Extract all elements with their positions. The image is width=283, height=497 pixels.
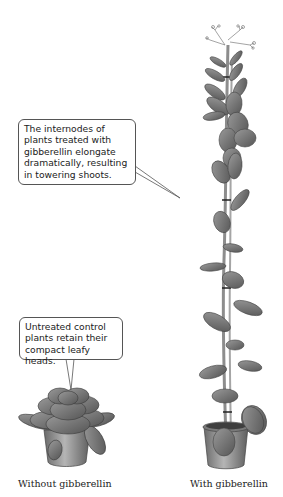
callout-top-text: The internodes of plants treated with gi… bbox=[24, 123, 127, 180]
caption-without-gibberellin: Without gibberellin bbox=[18, 478, 112, 489]
callout-bottom-text: Untreated control plants retain their co… bbox=[25, 321, 107, 366]
caption-with-gibberellin: With gibberellin bbox=[190, 478, 268, 489]
treated-pot bbox=[203, 403, 268, 469]
callout-control-plants: Untreated control plants retain their co… bbox=[19, 317, 123, 360]
treated-plant bbox=[198, 25, 271, 469]
callout-top-pointer bbox=[135, 166, 180, 198]
plant-illustration bbox=[0, 0, 283, 497]
callout-gibberellin-effect: The internodes of plants treated with gi… bbox=[18, 119, 136, 185]
callout-bottom-pointer bbox=[66, 359, 74, 390]
untreated-plant bbox=[17, 388, 116, 467]
